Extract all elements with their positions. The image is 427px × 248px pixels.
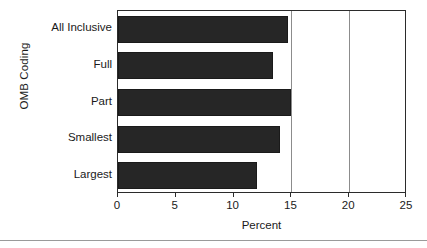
y-tick-label: Smallest — [20, 132, 112, 144]
bar — [118, 126, 280, 153]
footer-divider — [0, 240, 427, 241]
x-tick-mark — [117, 193, 118, 197]
bar — [118, 16, 288, 43]
plot-area — [117, 10, 406, 193]
x-tick-label: 20 — [328, 199, 368, 212]
y-tick-label: Part — [20, 96, 112, 108]
bar — [118, 162, 257, 189]
bar-chart-figure: OMB Coding All InclusiveFullPartSmallest… — [0, 0, 427, 248]
x-axis-title: Percent — [117, 219, 406, 231]
bar — [118, 52, 273, 79]
x-tick-label: 25 — [386, 199, 426, 212]
x-tick-mark — [233, 193, 234, 197]
x-tick-label: 15 — [270, 199, 310, 212]
y-tick-label: Full — [20, 59, 112, 71]
y-tick-label: Largest — [20, 169, 112, 181]
x-tick-label: 0 — [97, 199, 137, 212]
x-tick-mark — [348, 193, 349, 197]
bar — [118, 89, 291, 116]
x-tick-label: 5 — [155, 199, 195, 212]
x-tick-mark — [405, 193, 406, 197]
bars-layer — [118, 11, 405, 192]
x-tick-label: 10 — [213, 199, 253, 212]
x-tick-mark — [290, 193, 291, 197]
x-axis-tick-labels: 0510152025 — [117, 199, 406, 215]
x-tick-mark — [175, 193, 176, 197]
y-tick-label: All Inclusive — [20, 22, 112, 34]
y-axis-tick-labels: All InclusiveFullPartSmallestLargest — [20, 10, 112, 193]
